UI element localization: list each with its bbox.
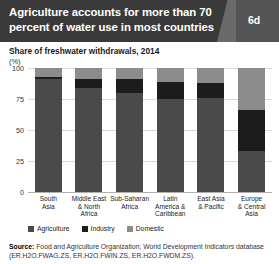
x-axis-label-line: Asia xyxy=(42,203,55,210)
segment-industry xyxy=(116,79,143,93)
x-axis-label-1: Middle East& NorthAfrica xyxy=(69,195,109,218)
y-tick-label-50: 50 xyxy=(4,126,24,135)
x-axis-label-line: Latin xyxy=(163,195,177,202)
x-axis-label-5: Europe& CentralAsia xyxy=(232,195,272,218)
x-axis-label-2: Sub-SaharanAfrica xyxy=(110,195,150,218)
y-tick-label-25: 25 xyxy=(4,157,24,166)
x-axis-label-line: Sub-Saharan xyxy=(110,195,149,202)
plot-area: 0255075100 xyxy=(28,68,272,192)
x-axis-label-line: Africa xyxy=(81,210,98,217)
segment-domestic xyxy=(157,68,184,82)
y-tick-label-0: 0 xyxy=(4,188,24,197)
legend-swatch-icon xyxy=(82,226,88,232)
segment-industry xyxy=(197,83,224,98)
legend-label: Domestic xyxy=(136,225,164,232)
segment-agriculture xyxy=(238,151,265,192)
x-axis-label-line: & North xyxy=(78,203,100,210)
x-axis-label-line: Middle East xyxy=(72,195,106,202)
bar-middle-east-north-africa xyxy=(75,68,102,192)
legend-item-domestic[interactable]: Domestic xyxy=(127,225,164,232)
x-axis-label-3: LatinAmerica &Caribbean xyxy=(150,195,190,218)
legend-swatch-icon xyxy=(28,226,34,232)
bar-sub-saharan-africa xyxy=(116,68,143,192)
legend-label: Industry xyxy=(91,225,115,232)
segment-industry xyxy=(238,110,265,151)
segment-domestic xyxy=(197,68,224,83)
legend-item-agriculture[interactable]: Agriculture xyxy=(28,225,70,232)
x-axis-label-line: & Central xyxy=(238,203,266,210)
y-tick-label-75: 75 xyxy=(4,95,24,104)
x-axis-label-line: East Asia xyxy=(197,195,225,202)
x-axis-label-line: & Pacific xyxy=(198,203,224,210)
x-axis-label-4: East Asia& Pacific xyxy=(191,195,231,218)
y-tick-label-100: 100 xyxy=(4,64,24,73)
source-text: Food and Agriculture Organization; World… xyxy=(9,243,264,259)
source-label: Source: xyxy=(9,243,34,250)
x-axis-label-line: Asia xyxy=(245,210,258,217)
x-axis-label-line: Europe xyxy=(241,195,262,202)
figure-number-badge: 6d xyxy=(248,14,260,26)
chart-subtitle: Share of freshwater withdrawals, 2014 xyxy=(9,46,159,56)
legend-swatch-icon xyxy=(127,226,133,232)
bar-group xyxy=(28,68,272,192)
x-axis-label-line: America & xyxy=(155,203,185,210)
segment-industry xyxy=(75,79,102,88)
segment-domestic xyxy=(35,68,62,77)
bar-south-asia xyxy=(35,68,62,192)
legend-label: Agriculture xyxy=(37,225,70,232)
segment-domestic xyxy=(116,68,143,79)
segment-agriculture xyxy=(157,99,184,192)
bar-latin-america-caribbean xyxy=(157,68,184,192)
header-banner: Agriculture accounts for more than 70 pe… xyxy=(0,0,279,42)
chart-title: Agriculture accounts for more than 70 pe… xyxy=(9,5,221,35)
x-axis-label-0: SouthAsia xyxy=(28,195,68,218)
segment-agriculture xyxy=(35,79,62,192)
gridline-0 xyxy=(28,192,272,193)
segment-domestic xyxy=(75,68,102,79)
x-axis-label-line: Caribbean xyxy=(155,210,185,217)
segment-agriculture xyxy=(75,88,102,192)
segment-agriculture xyxy=(116,93,143,192)
segment-agriculture xyxy=(197,98,224,192)
bar-east-asia-pacific xyxy=(197,68,224,192)
chart-legend: AgricultureIndustryDomestic xyxy=(28,225,176,232)
x-axis-label-line: Africa xyxy=(121,203,138,210)
x-axis-label-line: South xyxy=(40,195,57,202)
bar-europe-central-asia xyxy=(238,68,265,192)
source-note: Source: Food and Agriculture Organizatio… xyxy=(9,243,271,260)
legend-item-industry[interactable]: Industry xyxy=(82,225,115,232)
segment-industry xyxy=(157,82,184,99)
segment-domestic xyxy=(238,68,265,110)
chart-figure: Agriculture accounts for more than 70 pe… xyxy=(0,0,279,264)
x-axis-labels: SouthAsiaMiddle East& NorthAfricaSub-Sah… xyxy=(28,195,272,218)
